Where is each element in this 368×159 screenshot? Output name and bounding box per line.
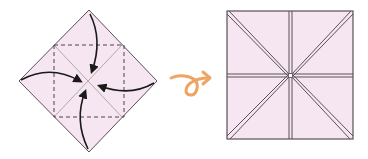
center-point bbox=[289, 74, 293, 78]
step-before-diagram bbox=[19, 10, 157, 152]
loop-arrow-icon bbox=[171, 72, 210, 95]
origami-diagram bbox=[0, 0, 368, 159]
step-after-diagram bbox=[227, 11, 353, 139]
